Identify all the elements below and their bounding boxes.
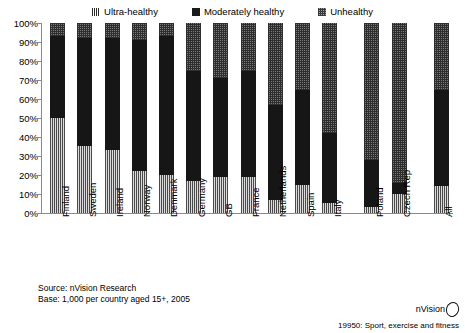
y-axis-tick-label: 10%	[0, 190, 38, 199]
y-axis-tick-label: 60%	[0, 95, 38, 104]
legend-item-unhealthy: Unhealthy	[318, 7, 373, 17]
x-axis-label-ireland: Ireland	[115, 188, 125, 217]
bar-segment-ultra	[50, 23, 65, 36]
bar-segment-ultra	[132, 23, 147, 40]
bar-italy[interactable]	[322, 23, 337, 213]
y-axis-tick	[37, 99, 42, 100]
y-axis-tick	[37, 61, 42, 62]
legend-swatch-ultra-healthy-icon	[92, 8, 100, 16]
y-axis-tick-label: 30%	[0, 152, 38, 161]
bar-segment-ultra	[295, 23, 310, 90]
bar-segment-ultra	[392, 23, 407, 183]
brand-logo: nVision	[416, 302, 459, 317]
bar-segment-ultra	[241, 23, 256, 71]
y-axis-labels: 0%10%20%30%40%50%60%70%80%90%100%	[0, 23, 38, 213]
y-axis-tick	[37, 175, 42, 176]
bar-segment-moderate	[105, 38, 120, 150]
bar-france[interactable]	[241, 23, 256, 213]
x-axis-label-czech-rep: Czech Rep	[402, 170, 412, 217]
y-axis-tick	[37, 137, 42, 138]
y-axis-tick-label: 100%	[0, 19, 38, 28]
source-line-2: Base: 1,000 per country aged 15+, 2005	[38, 294, 190, 305]
bar-segment-moderate	[213, 78, 228, 177]
bar-segment-ultra	[213, 23, 228, 78]
bar-segment-moderate	[50, 36, 65, 118]
y-axis-tick	[37, 42, 42, 43]
x-axis-label-gb: GB	[224, 203, 234, 217]
y-axis-tick	[37, 118, 42, 119]
legend-item-ultra-healthy: Ultra-healthy	[92, 7, 158, 17]
bar-segment-ultra	[77, 23, 92, 38]
bar-segment-moderate	[132, 40, 147, 171]
y-axis-tick	[37, 156, 42, 157]
y-axis-tick	[37, 23, 42, 24]
bar-gb[interactable]	[213, 23, 228, 213]
bar-segment-ultra	[105, 23, 120, 38]
x-axis-label-denmark: Denmark	[169, 178, 179, 217]
bar-segment-ultra	[364, 23, 379, 160]
brand-name: nVision	[416, 305, 445, 314]
y-axis-tick	[37, 213, 42, 214]
y-axis-tick-label: 0%	[0, 209, 38, 218]
legend-label-moderately-healthy: Moderately healthy	[204, 7, 284, 17]
x-axis-labels: FinlandSwedenIrelandNorwayDenmarkGermany…	[41, 215, 452, 275]
chart-footnote: 19950: Sport, exercise and fitness	[338, 321, 459, 330]
x-axis-label-poland: Poland	[375, 187, 385, 217]
y-axis-tick	[37, 80, 42, 81]
x-axis-label-all: All	[444, 206, 454, 217]
bar-segment-ultra	[268, 23, 283, 105]
source-line-1: Source: nVision Research	[38, 283, 190, 294]
x-axis-label-spain: Spain	[306, 193, 316, 217]
legend-label-ultra-healthy: Ultra-healthy	[104, 7, 158, 17]
bar-segment-ultra	[322, 23, 337, 133]
x-axis-label-france: France	[251, 187, 261, 217]
bar-segment-moderate	[159, 36, 174, 175]
bar-finland[interactable]	[50, 23, 65, 213]
bar-segment-moderate	[77, 38, 92, 146]
y-axis-tick	[37, 194, 42, 195]
bar-segment-ultra	[159, 23, 174, 36]
plot-area	[41, 23, 453, 214]
bar-segment-moderate	[295, 90, 310, 185]
y-axis-tick-label: 40%	[0, 133, 38, 142]
bar-spain[interactable]	[295, 23, 310, 213]
y-axis-tick-label: 90%	[0, 38, 38, 47]
bar-segment-moderate	[322, 133, 337, 203]
y-axis-tick-label: 50%	[0, 114, 38, 123]
y-axis-tick-label: 20%	[0, 171, 38, 180]
bar-segment-ultra	[434, 23, 449, 90]
x-axis-label-sweden: Sweden	[88, 183, 98, 217]
x-axis-label-netherlands: Netherlands	[278, 166, 288, 217]
y-axis-tick-label: 70%	[0, 76, 38, 85]
bar-segment-moderate	[434, 90, 449, 187]
bar-segment-moderate	[186, 71, 201, 181]
source-note: Source: nVision Research Base: 1,000 per…	[38, 283, 190, 305]
x-axis-label-germany: Germany	[197, 178, 207, 217]
x-axis-label-italy: Italy	[333, 200, 343, 217]
x-axis-label-finland: Finland	[61, 186, 71, 217]
brand-ellipse-icon	[444, 300, 461, 318]
chart-legend: Ultra-healthy Moderately healthy Unhealt…	[0, 5, 465, 19]
bar-all[interactable]	[434, 23, 449, 213]
legend-swatch-unhealthy-icon	[318, 8, 326, 16]
bar-poland[interactable]	[364, 23, 379, 213]
x-axis-label-norway: Norway	[142, 185, 152, 217]
legend-swatch-moderately-healthy-icon	[192, 8, 200, 16]
bar-ireland[interactable]	[105, 23, 120, 213]
y-axis-tick-label: 80%	[0, 57, 38, 66]
legend-label-unhealthy: Unhealthy	[330, 7, 373, 17]
legend-item-moderately-healthy: Moderately healthy	[192, 7, 284, 17]
bar-segment-ultra	[186, 23, 201, 71]
bar-segment-moderate	[241, 71, 256, 177]
